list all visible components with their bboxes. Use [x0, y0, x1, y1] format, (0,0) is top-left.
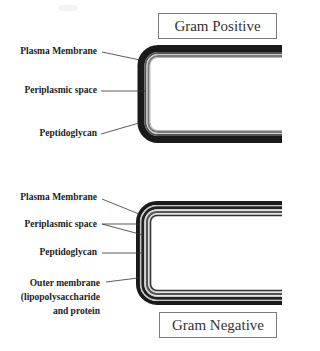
gp-label-plasma-membrane: Plasma Membrane: [20, 46, 97, 57]
gram-negative-wall: [138, 203, 282, 303]
gn-label-outer-membrane-line3: and protein: [21, 304, 100, 318]
gn-label-outer-membrane: Outer membrane (lipopolysaccharide and p…: [21, 276, 100, 318]
gp-label-peptidoglycan: Peptidoglycan: [39, 128, 97, 139]
gn-label-periplasmic-space: Periplasmic space: [24, 219, 97, 230]
gn-label-outer-membrane-line2: (lipopolysaccharide: [21, 290, 100, 304]
gn-label-peptidoglycan: Peptidoglycan: [39, 247, 97, 258]
gn-label-outer-membrane-line1: Outer membrane: [21, 276, 100, 290]
gn-label-plasma-membrane: Plasma Membrane: [20, 192, 97, 203]
gp-label-periplasmic-space: Periplasmic space: [24, 85, 97, 96]
gram-positive-wall: [141, 49, 282, 140]
